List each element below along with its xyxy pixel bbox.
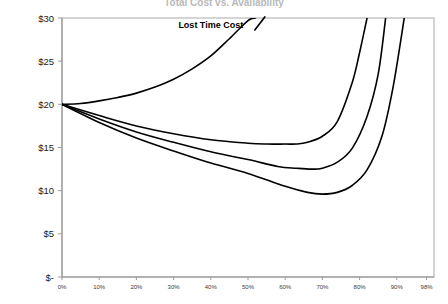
x-axis-ticks: 0%10%20%30%40%50%60%70%80%90%98% (58, 277, 434, 290)
x-tick-label: 40% (205, 284, 218, 290)
lost-time-cost-leader-line (255, 17, 265, 30)
y-tick-label: $5 (43, 228, 54, 239)
y-tick-label: $10 (38, 185, 54, 196)
x-tick-label: 30% (168, 284, 181, 290)
cost-availability-chart: Total Cost vs. Availability $-$5$10$15$2… (0, 0, 448, 304)
x-tick-label: 90% (391, 284, 404, 290)
series-curve-total-cost-a (62, 18, 367, 144)
y-tick-label: $25 (38, 56, 54, 67)
chart-title-layer: Total Cost vs. Availability (164, 0, 284, 8)
series-curve-total-cost-b (62, 18, 386, 169)
x-tick-label: 50% (242, 284, 255, 290)
page-title: Total Cost vs. Availability (164, 0, 284, 8)
x-tick-label: 60% (279, 284, 292, 290)
x-tick-label: 10% (93, 284, 106, 290)
series-curve-lost-time-cost (62, 18, 255, 104)
y-tick-label: $30 (38, 13, 54, 24)
x-tick-label: 98% (421, 284, 434, 290)
lost-time-cost-label: Lost Time Cost (178, 20, 243, 30)
x-tick-label: 20% (130, 284, 143, 290)
x-tick-label: 80% (354, 284, 367, 290)
y-axis-ticks: $-$5$10$15$20$25$30 (38, 13, 62, 283)
series-curves (62, 18, 404, 194)
chart-container: Total Cost vs. Availability $-$5$10$15$2… (0, 0, 448, 304)
series-curve-total-cost-c (62, 18, 404, 194)
x-tick-label: 0% (58, 284, 67, 290)
x-tick-label: 70% (316, 284, 329, 290)
y-tick-label: $- (46, 272, 54, 283)
y-tick-label: $15 (38, 142, 54, 153)
y-tick-label: $20 (38, 99, 54, 110)
